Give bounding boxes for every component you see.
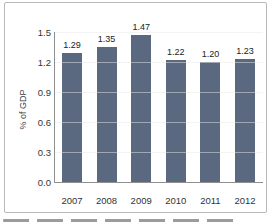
bar <box>97 47 117 182</box>
bar-value-label: 1.47 <box>124 22 158 33</box>
bar <box>166 60 186 182</box>
plot-area: % of GDP 0.00.30.60.91.21.51.2920071.352… <box>54 32 263 183</box>
bar-value-label: 1.22 <box>159 47 193 58</box>
y-tick-label: 0.6 <box>31 117 51 128</box>
bar-value-label: 1.35 <box>90 34 124 45</box>
y-tick-label: 1.2 <box>31 57 51 68</box>
x-tick-label: 2010 <box>159 195 193 206</box>
gridline-highlight <box>55 32 263 33</box>
bar <box>62 53 82 182</box>
bar <box>235 59 255 182</box>
gridline-highlight <box>55 152 263 153</box>
x-tick-label: 2012 <box>228 195 262 206</box>
y-tick-label: 0.9 <box>31 87 51 98</box>
bar-value-label: 1.23 <box>228 46 262 57</box>
bar-value-label: 1.20 <box>193 49 227 60</box>
x-tick-label: 2007 <box>55 195 89 206</box>
cropped-caption-fragment <box>3 219 237 222</box>
chart-figure: % of GDP 0.00.30.60.91.21.51.2920071.352… <box>0 0 275 224</box>
y-tick-label: 0.3 <box>31 147 51 158</box>
bar-value-label: 1.29 <box>55 40 89 51</box>
gridline-highlight <box>55 122 263 123</box>
y-tick-label: 1.5 <box>31 27 51 38</box>
x-tick-label: 2008 <box>90 195 124 206</box>
x-tick-label: 2009 <box>124 195 158 206</box>
gridline-highlight <box>55 92 263 93</box>
chart-frame: % of GDP 0.00.30.60.91.21.51.2920071.352… <box>4 2 267 213</box>
y-tick-label: 0.0 <box>31 177 51 188</box>
y-axis-title: % of GDP <box>18 87 29 133</box>
x-tick-label: 2011 <box>193 195 227 206</box>
bar <box>131 35 151 182</box>
gridline-highlight <box>55 62 263 63</box>
